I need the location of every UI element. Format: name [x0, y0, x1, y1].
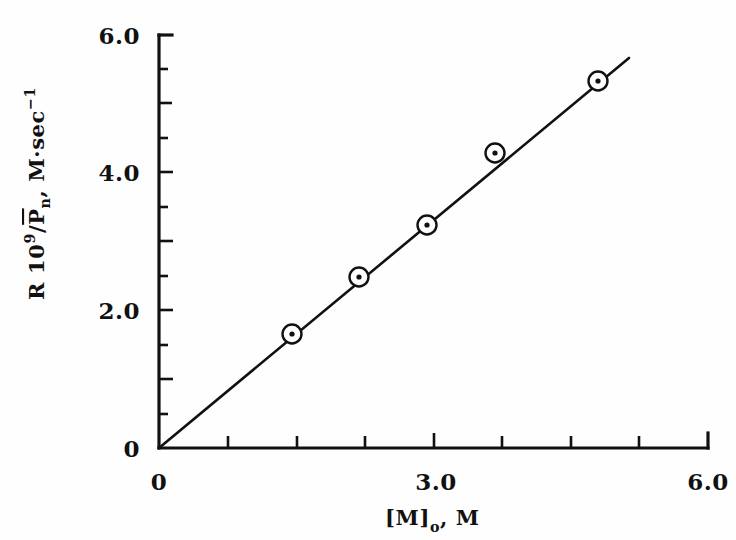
regression-line: [159, 58, 629, 448]
y-tick-label-0: 0: [123, 435, 140, 462]
x-tick-label-3: 3.0: [415, 468, 457, 495]
data-point: [283, 325, 302, 344]
figure-canvas: 6.0 4.0 2.0 0 0 3.0 6.0 [M]o, M R 109/Pn…: [0, 0, 736, 540]
x-tick-label-6: 6.0: [687, 468, 729, 495]
fit-line-group: [159, 58, 629, 448]
svg-text:R 109/Pn, M·sec−1: R 109/Pn, M·sec−1: [22, 87, 53, 300]
y-axis-title: R 109/Pn, M·sec−1: [22, 87, 53, 300]
x-tick-labels: 0 3.0 6.0: [151, 468, 729, 495]
data-point: [486, 144, 505, 163]
y-tick-label-4: 4.0: [98, 159, 140, 186]
x-axis-subscript-o: o: [430, 519, 440, 535]
x-axis-units: , M: [440, 505, 480, 530]
y-axis-ticks: [159, 69, 173, 414]
data-point: [418, 216, 437, 235]
y-tick-label-2: 2.0: [98, 297, 140, 324]
svg-text:[M]o, M: [M]o, M: [385, 505, 480, 535]
data-point: [350, 268, 369, 287]
data-point: [589, 72, 608, 91]
x-axis-ticks: [228, 433, 639, 448]
x-axis-bracket-m: [M]: [385, 505, 430, 530]
y-tick-label-6: 6.0: [98, 22, 140, 49]
y-axis-p-subscript: n: [37, 197, 53, 208]
x-axis-title: [M]o, M: [385, 505, 480, 535]
y-axis-exponent: 9: [22, 233, 38, 244]
y-axis-units-exponent: −1: [22, 87, 38, 110]
data-markers: [283, 72, 608, 344]
y-axis-p-symbol: P: [24, 208, 49, 224]
scatter-plot: 6.0 4.0 2.0 0 0 3.0 6.0 [M]o, M R 109/Pn…: [0, 0, 736, 540]
y-axis-prefix: R 10: [24, 244, 49, 300]
x-tick-label-0: 0: [151, 468, 168, 495]
y-axis-units: , M·sec: [24, 110, 49, 197]
y-axis-slash: /: [24, 225, 49, 233]
y-tick-labels: 6.0 4.0 2.0 0: [98, 22, 140, 462]
axes-group: [159, 35, 708, 448]
